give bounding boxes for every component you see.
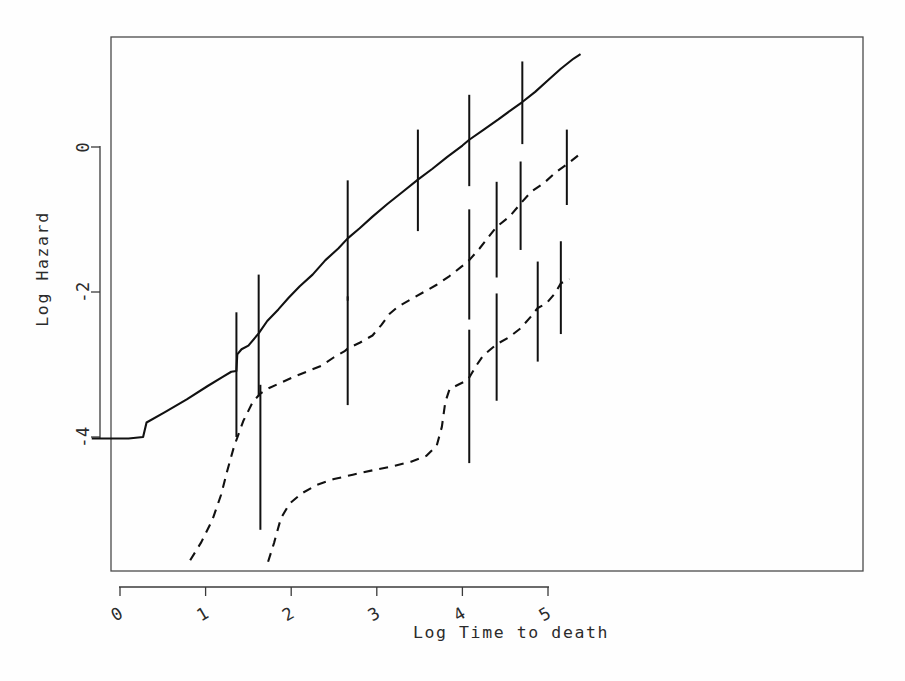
y-axis-title: Log Hazard [33, 211, 52, 326]
canvas-background [0, 0, 905, 681]
y-tick-label-0: 0 [73, 142, 93, 153]
chart-figure: 012345 0-2-4 Log Time to deathLog Hazard [0, 0, 905, 681]
chart-canvas: 012345 0-2-4 Log Time to deathLog Hazard [0, 0, 905, 681]
x-axis-title: Log Time to death [413, 623, 609, 642]
y-tick-label-2: -4 [73, 426, 93, 447]
figure-page: 012345 0-2-4 Log Time to deathLog Hazard [0, 0, 905, 681]
y-tick-label-1: -2 [73, 281, 93, 302]
